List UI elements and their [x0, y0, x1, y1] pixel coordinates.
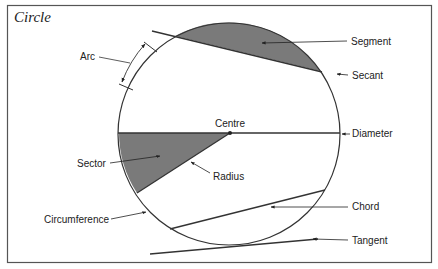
leader-radius	[191, 162, 210, 173]
diagram-title: Circle	[14, 9, 51, 25]
leader-tangent	[313, 239, 348, 240]
label-segment: Segment	[351, 36, 391, 47]
label-arc: Arc	[80, 51, 95, 62]
sector-shape	[119, 133, 230, 193]
chord-line	[170, 190, 325, 229]
label-radius: Radius	[213, 171, 244, 182]
leader-arc	[99, 57, 130, 63]
leader-circumference	[111, 212, 146, 219]
label-tangent: Tangent	[352, 235, 388, 246]
arc-tick-bottom	[119, 84, 133, 90]
label-sector: Sector	[77, 158, 107, 169]
label-diameter: Diameter	[352, 128, 393, 139]
label-chord: Chord	[352, 201, 379, 212]
label-centre: Centre	[215, 118, 245, 129]
circle-diagram: Circle Arc Segment Secant Centre Diamete…	[0, 0, 438, 269]
label-circumference: Circumference	[44, 214, 109, 225]
centre-point	[228, 131, 232, 135]
arc-tick-top	[144, 42, 157, 52]
label-secant: Secant	[352, 70, 383, 81]
leader-secant	[337, 74, 348, 75]
tangent-line	[150, 239, 318, 254]
